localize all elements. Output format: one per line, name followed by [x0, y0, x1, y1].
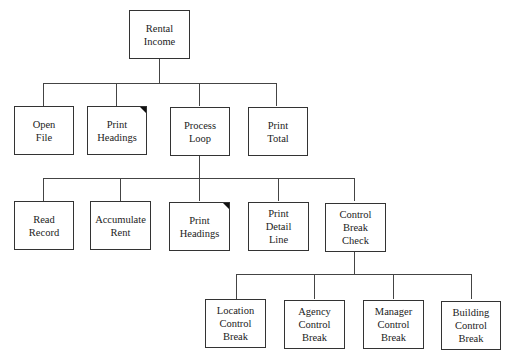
- node-open-file: Open File: [14, 106, 74, 155]
- connector: [354, 250, 355, 274]
- connector: [43, 83, 277, 84]
- node-label: Building Control Break: [453, 306, 490, 345]
- connector: [43, 178, 44, 201]
- connector: [199, 154, 200, 178]
- node-label: Print Headings: [97, 118, 137, 144]
- hierarchy-chart: Rental Income Open File Print Headings P…: [0, 0, 513, 360]
- connector: [314, 274, 315, 299]
- node-accumulate-rent: Accumulate Rent: [90, 201, 151, 250]
- connector: [159, 58, 160, 83]
- node-label: Process Loop: [184, 119, 216, 145]
- node-agency-control-break: Agency Control Break: [284, 300, 345, 349]
- connector: [199, 83, 200, 106]
- node-building-control-break: Building Control Break: [441, 301, 501, 350]
- node-rental-income: Rental Income: [129, 10, 190, 59]
- node-label: Open File: [33, 118, 56, 144]
- node-print-detail-line: Print Detail Line: [248, 202, 309, 251]
- connector: [354, 178, 355, 201]
- node-label: Print Total: [267, 119, 288, 145]
- connector: [236, 274, 472, 275]
- node-label: Print Headings: [180, 214, 220, 240]
- predefined-module-marker-icon: [223, 203, 229, 209]
- node-read-record: Read Record: [14, 201, 74, 250]
- node-manager-control-break: Manager Control Break: [363, 300, 424, 349]
- connector: [276, 83, 277, 106]
- node-control-break-check: Control Break Check: [325, 203, 386, 252]
- node-label: Location Control Break: [217, 304, 254, 343]
- predefined-module-marker-icon: [140, 107, 146, 113]
- connector: [43, 83, 44, 106]
- connector: [236, 274, 237, 299]
- connector: [393, 274, 394, 299]
- connector: [120, 178, 121, 201]
- node-label: Control Break Check: [339, 208, 371, 247]
- connector: [278, 178, 279, 201]
- node-print-headings: Print Headings: [87, 106, 147, 155]
- node-label: Manager Control Break: [375, 305, 412, 344]
- connector: [116, 83, 117, 106]
- node-label: Print Detail Line: [266, 207, 292, 246]
- node-label: Read Record: [29, 213, 59, 239]
- node-label: Rental Income: [144, 22, 176, 48]
- node-process-loop: Process Loop: [170, 107, 230, 156]
- node-print-headings: Print Headings: [169, 202, 230, 251]
- node-print-total: Print Total: [248, 107, 308, 156]
- connector: [199, 178, 200, 201]
- connector: [471, 274, 472, 299]
- node-location-control-break: Location Control Break: [205, 299, 266, 348]
- node-label: Accumulate Rent: [95, 213, 146, 239]
- node-label: Agency Control Break: [298, 305, 331, 344]
